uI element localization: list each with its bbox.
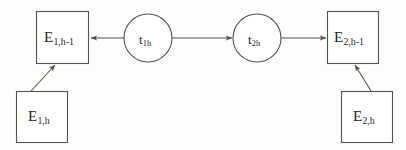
- node-box-e2h1: [328, 12, 379, 64]
- edge-e2h-to-e2h1: [355, 65, 371, 91]
- edge-e1h-to-e1h1: [31, 65, 55, 91]
- diagram-graphics: [0, 0, 406, 150]
- node-box-e1h1: [37, 12, 89, 64]
- node-box-e2h: [342, 92, 393, 143]
- node-box-e1h: [17, 92, 68, 143]
- node-circle-t1h: [124, 14, 172, 62]
- diagram-canvas: E1,h-1 t1h t2h E2,h-1 E1,h E2,h: [0, 0, 406, 150]
- node-circle-t2h: [233, 14, 281, 62]
